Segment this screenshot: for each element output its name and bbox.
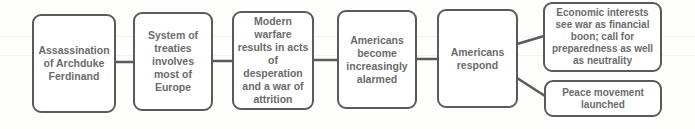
- node-label: Americans respond: [442, 46, 513, 72]
- node-label: Peace movement launched: [549, 87, 657, 111]
- node-americans-respond: Americans respond: [437, 9, 518, 108]
- node-peace-movement: Peace movement launched: [544, 80, 662, 117]
- edge-n5-n7: [517, 78, 545, 96]
- node-economic-interests: Economic interests see war as financial …: [543, 2, 662, 72]
- node-label: Economic interests see war as financial …: [548, 7, 657, 67]
- node-treaties: System of treaties involves most of Euro…: [133, 12, 213, 111]
- edge-n5-n6: [517, 36, 544, 44]
- node-label: Modern warfare results in acts of desper…: [237, 15, 309, 106]
- node-label: Assassination of Archduke Ferdinand: [37, 44, 111, 83]
- node-label: Americans become increasingly alarmed: [342, 34, 412, 86]
- node-americans-alarmed: Americans become increasingly alarmed: [337, 10, 417, 109]
- node-label: System of treaties involves most of Euro…: [138, 29, 208, 94]
- node-modern-warfare: Modern warfare results in acts of desper…: [232, 11, 314, 110]
- node-assassination: Assassination of Archduke Ferdinand: [32, 14, 116, 113]
